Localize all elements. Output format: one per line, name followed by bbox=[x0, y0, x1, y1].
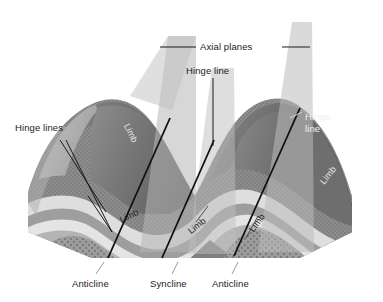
label-anticline-left: Anticline bbox=[72, 278, 109, 289]
label-syncline-center: Syncline bbox=[150, 278, 187, 289]
leader-syncline-center bbox=[172, 262, 178, 274]
leader-anticline-right bbox=[232, 262, 238, 274]
label-hinge-line-right-line2: line bbox=[305, 123, 320, 134]
label-hinge-line-top: Hinge line bbox=[186, 65, 229, 76]
label-hinge-line-right-line1: Hinge bbox=[305, 111, 330, 122]
label-hinge-lines-left: Hinge lines bbox=[15, 122, 63, 133]
fold-block-diagram bbox=[0, 0, 383, 302]
leader-anticline-left bbox=[96, 262, 104, 274]
label-axial-planes: Axial planes bbox=[200, 41, 252, 52]
label-anticline-right: Anticline bbox=[212, 278, 249, 289]
fold-diagram-canvas: Axial planes Hinge line Hinge lines Hing… bbox=[0, 0, 383, 302]
